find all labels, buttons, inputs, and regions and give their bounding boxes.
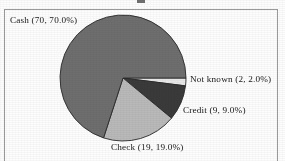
slice-label-cash: Cash (70, 70.0%) xyxy=(10,15,77,25)
pie-chart-figure: Cash (70, 70.0%) Not known (2, 2.0%) Cre… xyxy=(0,0,285,161)
slice-label-check: Check (19, 19.0%) xyxy=(111,142,184,152)
slice-label-credit: Credit (9, 9.0%) xyxy=(183,105,246,115)
slice-label-not-known: Not known (2, 2.0%) xyxy=(190,74,271,84)
pie-slice-group xyxy=(60,15,186,141)
